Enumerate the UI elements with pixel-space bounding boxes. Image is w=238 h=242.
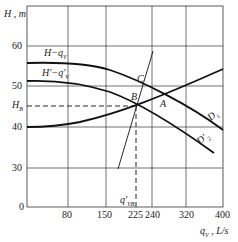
label-qvb: q′VB bbox=[120, 195, 135, 209]
chart-plot bbox=[0, 0, 238, 242]
y-tick-60: 60 bbox=[12, 41, 22, 51]
plot-frame bbox=[27, 6, 223, 207]
x-tick-400: 400 bbox=[215, 210, 230, 220]
label-h-prime-qv: H′−q′V bbox=[42, 68, 69, 82]
point-c-label: C bbox=[137, 74, 144, 84]
y-tick-hb: HB bbox=[12, 100, 23, 114]
x-tick-240: 240 bbox=[145, 210, 160, 220]
x-tick-225: 225 bbox=[128, 210, 143, 220]
y-tick-0: 0 bbox=[19, 202, 24, 212]
horizontal-gridlines bbox=[27, 46, 223, 168]
x-tick-320: 320 bbox=[179, 210, 194, 220]
y-tick-40: 40 bbox=[12, 122, 22, 132]
y-axis-label: H , m bbox=[4, 9, 26, 19]
x-tick-150: 150 bbox=[97, 210, 112, 220]
vertical-gridlines bbox=[68, 6, 186, 207]
y-tick-50: 50 bbox=[12, 81, 22, 91]
point-b-label: B bbox=[131, 92, 137, 102]
x-tick-80: 80 bbox=[62, 210, 72, 220]
x-axis-label: qV , L/s bbox=[200, 226, 228, 240]
label-h-qv: H−qV bbox=[44, 48, 67, 62]
y-tick-30: 30 bbox=[12, 163, 22, 173]
point-a-label: A bbox=[160, 99, 166, 109]
